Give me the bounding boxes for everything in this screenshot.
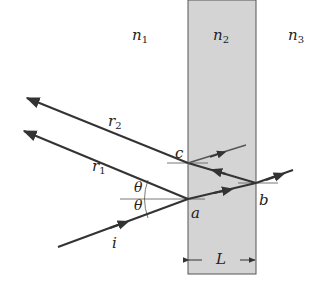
label-b: b [259, 193, 269, 208]
label-n2: n2 [213, 28, 229, 45]
label-r2: r2 [108, 114, 122, 131]
label-L: L [216, 252, 226, 267]
label-a: a [191, 206, 200, 221]
label-theta-lower: θ [134, 198, 142, 212]
ray-r1 [24, 131, 188, 199]
thin-film-diagram: n1 n2 n3 r2 r1 i θ θ a b c L [0, 0, 319, 298]
label-n3: n3 [288, 28, 304, 45]
label-i: i [112, 236, 117, 251]
diagram-graphics [0, 0, 319, 298]
label-r1: r1 [92, 159, 106, 176]
label-n1: n1 [132, 28, 148, 45]
label-c: c [175, 146, 183, 161]
label-theta-upper: θ [134, 180, 142, 194]
